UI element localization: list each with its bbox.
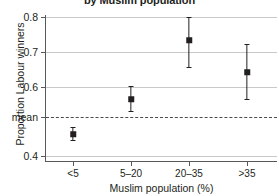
errorbar-cap-bottom-1 bbox=[71, 140, 76, 141]
gridline-0.4 bbox=[46, 156, 277, 157]
errorbar-cap-bottom-3 bbox=[187, 67, 192, 68]
gridline-0.7 bbox=[46, 52, 277, 53]
gridline-0.6 bbox=[46, 87, 277, 88]
x-tick-1 bbox=[73, 162, 74, 166]
x-tick-label-1: <5 bbox=[67, 168, 78, 179]
y-tick-0.4 bbox=[41, 156, 45, 157]
errorbar-cap-bottom-2 bbox=[129, 111, 134, 112]
data-marker-2 bbox=[128, 96, 134, 102]
x-axis-title: Muslim population (%) bbox=[46, 182, 277, 194]
y-tick-mean bbox=[41, 117, 45, 118]
errorbar-cap-top-2 bbox=[129, 86, 134, 87]
x-tick-3 bbox=[189, 162, 190, 166]
errorbar-cap-bottom-4 bbox=[245, 99, 250, 100]
y-axis-title: Proportion Labour winners bbox=[14, 4, 26, 164]
errorbar-cap-top-3 bbox=[187, 17, 192, 18]
x-axis-line bbox=[45, 161, 277, 162]
data-marker-3 bbox=[186, 37, 192, 43]
y-tick-0.6 bbox=[41, 87, 45, 88]
gridline-0.8 bbox=[46, 17, 277, 18]
x-tick-2 bbox=[131, 162, 132, 166]
plot-area bbox=[46, 17, 277, 156]
errorbar-cap-top-1 bbox=[71, 127, 76, 128]
data-marker-1 bbox=[70, 131, 76, 137]
errorbar-cap-top-4 bbox=[245, 44, 250, 45]
y-tick-0.7 bbox=[41, 52, 45, 53]
mean-reference-line bbox=[41, 117, 277, 118]
x-tick-label-2: 5–20 bbox=[120, 168, 142, 179]
y-tick-0.8 bbox=[41, 17, 45, 18]
chart-figure: by Muslim population bbox=[0, 0, 279, 196]
y-axis-line bbox=[45, 15, 46, 162]
x-tick-4 bbox=[247, 162, 248, 166]
x-tick-label-4: >35 bbox=[239, 168, 256, 179]
data-marker-4 bbox=[244, 69, 250, 75]
x-tick-label-3: 20–35 bbox=[175, 168, 203, 179]
chart-title: by Muslim population bbox=[0, 0, 279, 6]
